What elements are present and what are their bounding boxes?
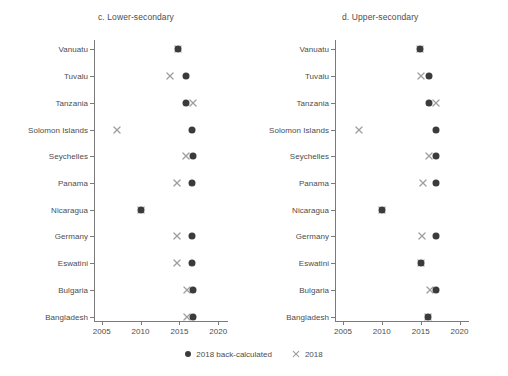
x-axis-tick-label: 2015: [170, 327, 188, 336]
data-point-dot: [433, 153, 440, 160]
data-point-dot: [190, 313, 197, 320]
panel-lower-secondary: c. Lower-secondary VanuatuTuvaluTanzania…: [0, 0, 254, 340]
x-axis-tick-label: 2005: [334, 327, 352, 336]
y-tick-mark: [90, 317, 94, 318]
y-axis-label-panama: Panama: [299, 178, 329, 187]
data-point-dot: [189, 153, 196, 160]
data-point-dot: [190, 286, 197, 293]
y-axis-label-seychelles: Seychelles: [290, 152, 329, 161]
data-point-dot: [188, 126, 195, 133]
y-axis-label-germany: Germany: [296, 232, 329, 241]
y-axis-label-tuvalu: Tuvalu: [305, 72, 329, 81]
data-point-dot: [182, 73, 189, 80]
data-point-dot: [183, 99, 190, 106]
data-point-cross-icon: [432, 98, 441, 107]
legend-dot-icon: [185, 351, 191, 357]
y-tick-mark: [90, 263, 94, 264]
figure-panel-group: c. Lower-secondary VanuatuTuvaluTanzania…: [0, 0, 508, 376]
y-axis-label-bulgaria: Bulgaria: [58, 285, 88, 294]
y-tick-mark: [90, 236, 94, 237]
x-axis-line: [335, 321, 469, 322]
data-point-dot: [378, 206, 385, 213]
data-point-dot: [433, 179, 440, 186]
x-axis-tick-label: 2005: [93, 327, 111, 336]
data-point-cross-icon: [419, 178, 428, 187]
y-axis-label-nicaragua: Nicaragua: [292, 205, 329, 214]
y-tick-mark: [331, 156, 335, 157]
data-point-dot: [426, 99, 433, 106]
y-axis-label-bulgaria: Bulgaria: [299, 285, 329, 294]
y-tick-mark: [90, 103, 94, 104]
y-axis-label-solomon-islands: Solomon Islands: [269, 125, 329, 134]
y-tick-mark: [90, 130, 94, 131]
y-tick-mark: [90, 156, 94, 157]
y-tick-mark: [331, 76, 335, 77]
y-tick-mark: [331, 210, 335, 211]
y-axis-label-tanzania: Tanzania: [56, 98, 88, 107]
legend-cross-icon: [292, 350, 300, 358]
y-axis-label-vanuatu: Vanuatu: [58, 45, 88, 54]
y-axis-label-vanuatu: Vanuatu: [299, 45, 329, 54]
plot-area-d: VanuatuTuvaluTanzaniaSolomon IslandsSeyc…: [254, 0, 508, 340]
x-tick-mark: [141, 321, 142, 325]
data-point-dot: [426, 73, 433, 80]
y-axis-label-tuvalu: Tuvalu: [64, 72, 88, 81]
data-point-cross-icon: [418, 232, 427, 241]
data-point-dot: [137, 206, 144, 213]
data-point-cross-icon: [354, 125, 363, 134]
y-axis-label-eswatini: Eswatini: [58, 258, 88, 267]
y-tick-mark: [331, 49, 335, 50]
x-tick-mark: [102, 321, 103, 325]
data-point-dot: [418, 259, 425, 266]
data-point-dot: [425, 313, 432, 320]
x-tick-mark: [460, 321, 461, 325]
x-tick-mark: [179, 321, 180, 325]
data-point-dot: [416, 46, 423, 53]
y-axis-label-germany: Germany: [55, 232, 88, 241]
y-tick-mark: [331, 236, 335, 237]
data-point-cross-icon: [173, 258, 182, 267]
y-axis-label-nicaragua: Nicaragua: [51, 205, 88, 214]
data-point-dot: [433, 126, 440, 133]
data-point-dot: [188, 179, 195, 186]
panel-upper-secondary: d. Upper-secondary VanuatuTuvaluTanzania…: [254, 0, 508, 340]
y-tick-mark: [331, 130, 335, 131]
y-tick-mark: [331, 183, 335, 184]
y-axis-label-bangladesh: Bangladesh: [286, 312, 329, 321]
x-tick-mark: [382, 321, 383, 325]
data-point-dot: [188, 259, 195, 266]
x-axis-tick-label: 2010: [132, 327, 150, 336]
y-tick-mark: [331, 290, 335, 291]
data-point-dot: [433, 286, 440, 293]
plot-area-c: VanuatuTuvaluTanzaniaSolomon IslandsSeyc…: [0, 0, 254, 340]
legend-label: 2018: [305, 350, 323, 359]
y-tick-mark: [90, 49, 94, 50]
y-axis-label-seychelles: Seychelles: [49, 152, 88, 161]
x-tick-mark: [421, 321, 422, 325]
y-tick-mark: [331, 103, 335, 104]
legend-item: 2018 back-calculated: [185, 350, 272, 359]
y-axis-label-panama: Panama: [58, 178, 88, 187]
x-axis-tick-label: 2010: [373, 327, 391, 336]
y-tick-mark: [90, 183, 94, 184]
y-tick-mark: [90, 210, 94, 211]
x-tick-mark: [218, 321, 219, 325]
data-point-cross-icon: [113, 125, 122, 134]
data-point-cross-icon: [173, 178, 182, 187]
y-tick-mark: [90, 76, 94, 77]
y-tick-mark: [331, 317, 335, 318]
data-point-cross-icon: [173, 232, 182, 241]
x-axis-line: [94, 321, 228, 322]
x-axis-tick-label: 2015: [412, 327, 430, 336]
x-tick-mark: [343, 321, 344, 325]
y-axis-label-eswatini: Eswatini: [299, 258, 329, 267]
data-point-cross-icon: [189, 98, 198, 107]
data-point-dot: [433, 233, 440, 240]
data-point-dot: [188, 233, 195, 240]
y-axis-line: [94, 40, 95, 321]
legend-item: 2018: [292, 350, 323, 359]
y-axis-line: [335, 40, 336, 321]
chart-legend: 2018 back-calculated2018: [0, 344, 508, 364]
data-point-cross-icon: [166, 72, 175, 81]
y-axis-label-bangladesh: Bangladesh: [45, 312, 88, 321]
